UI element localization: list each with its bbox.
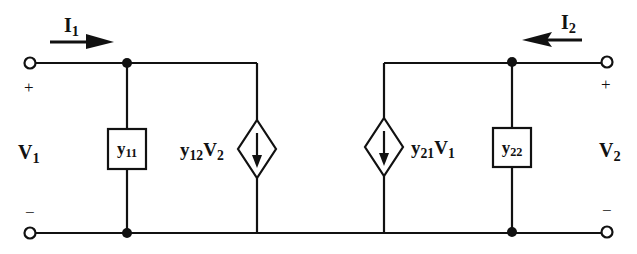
voltage-v2-label: V2 bbox=[599, 140, 621, 163]
voltage-v1-label: V1 bbox=[18, 142, 40, 165]
circuit-diagram bbox=[0, 0, 637, 254]
source1-label: y12V2 bbox=[180, 140, 224, 163]
v1-plus-sign: + bbox=[24, 79, 34, 96]
node-dot-bottom-right bbox=[507, 227, 517, 237]
v2-minus-sign: − bbox=[602, 202, 612, 219]
terminal-input-negative bbox=[25, 228, 36, 239]
y11-label: y11 bbox=[108, 140, 146, 159]
source2-arrow-down-icon bbox=[379, 153, 389, 166]
v1-minus-sign: − bbox=[25, 204, 35, 221]
v2-plus-sign: + bbox=[601, 76, 611, 93]
node-dot-bottom-left bbox=[122, 228, 132, 238]
source1-arrow-down-icon bbox=[252, 155, 262, 168]
i1-arrow-right-icon bbox=[86, 34, 114, 49]
node-dot-top-left bbox=[122, 58, 132, 68]
terminal-output-negative bbox=[602, 227, 613, 238]
current-i1-label: I1 bbox=[64, 15, 79, 38]
current-i2-label: I2 bbox=[561, 12, 576, 35]
terminal-output-positive bbox=[602, 57, 613, 68]
y22-label: y22 bbox=[493, 139, 531, 158]
source2-label: y21V1 bbox=[411, 138, 455, 161]
node-dot-top-right bbox=[507, 57, 517, 67]
terminal-input-positive bbox=[25, 58, 36, 69]
